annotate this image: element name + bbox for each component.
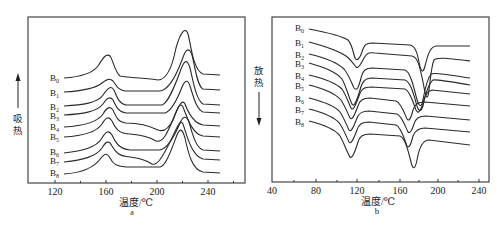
curve-b7 <box>309 109 470 147</box>
chart-b-curves <box>309 29 470 168</box>
chart-b-tick-labels: 40 80 120 160 200 240 <box>267 185 487 196</box>
chart-a-caption: a <box>130 208 134 217</box>
tick-label: 120 <box>350 185 365 196</box>
tick-label: 160 <box>393 185 408 196</box>
series-label-b8: B8 <box>295 117 304 128</box>
svg-text:吸: 吸 <box>13 114 23 124</box>
chart-a-x-axis-label: 温度/℃ <box>119 196 153 208</box>
series-label-b1: B1 <box>50 88 59 99</box>
curve-b6 <box>309 98 470 133</box>
curve-b5 <box>309 85 470 120</box>
series-label-b6: B6 <box>295 94 304 105</box>
svg-text:放: 放 <box>254 65 264 76</box>
tick-label: 80 <box>311 185 321 196</box>
chart-b-y-axis-label: 放 热 <box>254 65 264 126</box>
series-label-b0: B0 <box>295 23 304 34</box>
curve-b1 <box>64 50 220 92</box>
curve-b4 <box>64 102 220 131</box>
svg-text:热: 热 <box>13 125 23 136</box>
curve-b2 <box>309 54 470 106</box>
curve-b0 <box>64 31 220 80</box>
chart-a-y-axis-label: 吸 热 <box>13 73 23 136</box>
tick-label: 240 <box>201 186 216 197</box>
series-label-b0: B0 <box>50 73 59 84</box>
dsc-figure: 120 160 200 240 温度/℃ a 吸 热 B0 B1 B2 B3 B… <box>0 0 502 228</box>
chart-a-legend: B0 B1 B2 B3 B4 B5 B6 B7 B8 <box>50 73 59 179</box>
series-label-b5: B5 <box>295 81 304 92</box>
tick-label: 40 <box>267 185 277 196</box>
curve-b8 <box>309 121 470 168</box>
chart-b-legend: B0 B1 B2 B3 B4 B5 B6 B7 B8 <box>295 23 304 128</box>
series-label-b5: B5 <box>50 132 59 143</box>
tick-label: 160 <box>99 186 114 197</box>
tick-label: 120 <box>48 186 63 197</box>
svg-text:热: 热 <box>254 77 264 88</box>
chart-a-curves <box>64 31 220 174</box>
chart-b-caption: b <box>375 206 380 216</box>
series-label-b7: B7 <box>295 105 304 116</box>
series-label-b8: B8 <box>50 168 59 179</box>
tick-label: 200 <box>431 185 446 196</box>
arrow-up-icon-head <box>16 73 21 81</box>
chart-a: 120 160 200 240 温度/℃ a 吸 热 B0 B1 B2 B3 B… <box>13 17 245 217</box>
chart-b: 40 80 120 160 200 240 温度/℃ b 放 热 B0 B1 B… <box>254 17 489 216</box>
tick-label: 240 <box>472 185 487 196</box>
curve-b8 <box>64 130 220 174</box>
curve-b3 <box>64 81 220 115</box>
chart-a-tick-labels: 120 160 200 240 <box>48 186 216 197</box>
arrow-down-icon-head <box>257 118 262 126</box>
series-label-b1: B1 <box>295 38 304 49</box>
tick-label: 200 <box>150 186 165 197</box>
